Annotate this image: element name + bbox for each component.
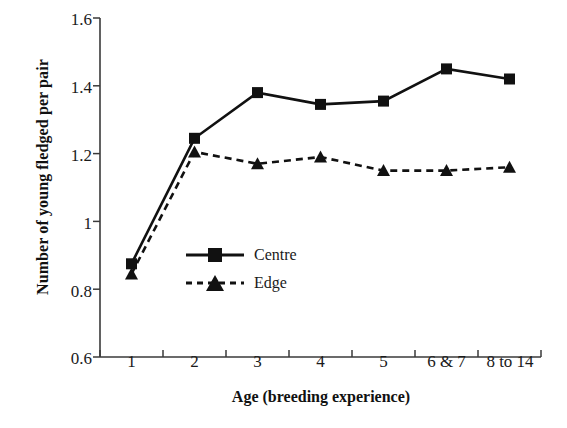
- legend-label-edge: Edge: [254, 274, 287, 292]
- legend-key-edge: [186, 273, 244, 293]
- square-marker: [504, 74, 515, 85]
- square-marker: [189, 133, 200, 144]
- legend-entry-centre: Centre: [186, 241, 356, 269]
- square-marker: [315, 99, 326, 110]
- x-tick-label: 8 to 14: [478, 352, 542, 372]
- legend-label-centre: Centre: [254, 246, 297, 264]
- square-marker: [378, 96, 389, 107]
- legend-entry-edge: Edge: [186, 269, 356, 297]
- x-tick-label: 1: [100, 352, 163, 372]
- x-tick-label: 6 & 7: [415, 352, 478, 372]
- x-tick-label: 2: [163, 352, 226, 372]
- x-axis-title: Age (breeding experience): [100, 388, 542, 406]
- chart-legend: Centre Edge: [186, 241, 356, 297]
- x-tick-label: 4: [289, 352, 352, 372]
- y-axis-ticks: [93, 18, 100, 357]
- square-marker-icon: [208, 248, 222, 262]
- x-tick-label: 5: [352, 352, 415, 372]
- square-marker: [441, 63, 452, 74]
- triangle-marker: [314, 151, 327, 163]
- chart-container: Number of young fledged per pair 1.6 1.4…: [0, 0, 567, 428]
- legend-key-centre: [186, 245, 244, 265]
- square-marker: [252, 87, 263, 98]
- x-tick-label: 3: [226, 352, 289, 372]
- x-axis-tick-labels: 1 2 3 4 5 6 & 7 8 to 14: [100, 352, 542, 378]
